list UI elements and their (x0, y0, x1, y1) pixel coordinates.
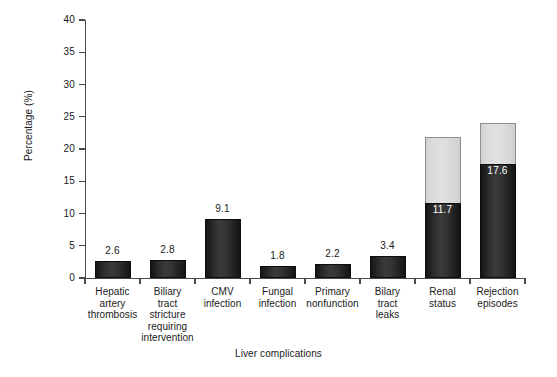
bar-slot: 2.2 (305, 20, 360, 278)
x-axis-tick (469, 278, 470, 284)
bar-slot: 17.6 (470, 20, 525, 278)
bar-segment-dark (370, 256, 406, 278)
bar[interactable]: 9.1 (205, 219, 241, 278)
bar-segment-dark (260, 266, 296, 278)
x-axis-category-label: Rejectionepisodes (464, 286, 531, 309)
x-axis-tick (139, 278, 140, 284)
x-axis-category-label-line: intervention (134, 332, 201, 344)
bar-slot: 2.8 (140, 20, 195, 278)
y-axis-tick-label: 10 (45, 209, 75, 219)
x-axis-tick (304, 278, 305, 284)
bar-value-label: 3.4 (380, 241, 395, 251)
x-axis-title: Liver complications (0, 348, 557, 359)
plot-area: 2.62.89.11.82.23.411.717.6 (85, 20, 525, 278)
x-axis-category-label-line: leaks (354, 309, 421, 321)
x-axis-category-label-line: episodes (464, 298, 531, 310)
bar-value-label: 11.7 (433, 205, 453, 215)
bar-segment-dark (150, 260, 186, 278)
bar-segment-dark (315, 264, 351, 278)
bar[interactable]: 1.8 (260, 266, 296, 278)
y-axis-tick-label: 0 (45, 273, 75, 283)
y-axis-tick-label: 30 (45, 80, 75, 90)
x-axis-tick (524, 278, 525, 284)
bar-slot: 1.8 (250, 20, 305, 278)
bar-chart: Percentage (%) 0510152025303540 2.62.89.… (0, 0, 557, 377)
bar[interactable]: 3.4 (370, 256, 406, 278)
bar[interactable]: 17.6 (480, 123, 516, 278)
bar-value-label: 1.8 (270, 251, 285, 261)
x-axis-tick (84, 278, 85, 284)
x-axis-tick (249, 278, 250, 284)
y-axis-tick-label: 5 (45, 241, 75, 251)
y-axis-title: Percentage (%) (23, 56, 34, 196)
y-axis-tick-label: 35 (45, 47, 75, 57)
y-axis-tick-labels: 0510152025303540 (43, 0, 75, 377)
x-axis-tick (414, 278, 415, 284)
bar-value-label: 2.2 (325, 249, 340, 259)
bar-value-label: 9.1 (215, 204, 230, 214)
bar[interactable]: 2.8 (150, 260, 186, 278)
bar[interactable]: 2.6 (95, 261, 131, 278)
bar[interactable]: 2.2 (315, 264, 351, 278)
bar-value-label: 2.6 (105, 246, 120, 256)
bar-segment-dark (205, 219, 241, 278)
bar-slot: 11.7 (415, 20, 470, 278)
x-axis-tick (194, 278, 195, 284)
x-axis-category-label-line: requiring (134, 321, 201, 333)
y-axis-tick-label: 25 (45, 112, 75, 122)
bar-segment-light (425, 137, 461, 203)
bar[interactable]: 11.7 (425, 137, 461, 278)
x-axis-category-label-line: Rejection (464, 286, 531, 298)
bar-slot: 9.1 (195, 20, 250, 278)
bar-slot: 3.4 (360, 20, 415, 278)
y-axis-tick-label: 40 (45, 15, 75, 25)
x-axis-category-label-line: stricture (134, 309, 201, 321)
y-axis-tick-label: 20 (45, 144, 75, 154)
bar-value-label: 2.8 (160, 245, 175, 255)
bar-slot: 2.6 (85, 20, 140, 278)
x-axis-tick (359, 278, 360, 284)
bar-segment-light (480, 123, 516, 164)
bar-segment-dark (95, 261, 131, 278)
bar-segment-dark (480, 164, 516, 278)
y-axis-tick-label: 15 (45, 176, 75, 186)
bar-value-label: 17.6 (487, 166, 507, 176)
